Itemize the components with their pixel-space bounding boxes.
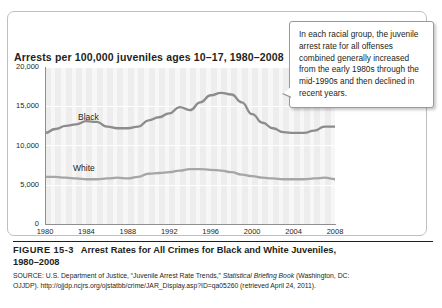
- y-tick-label: 5,000: [3, 180, 39, 189]
- caption-separator: [13, 241, 433, 242]
- figure-caption-line2: 1980–2008: [13, 257, 60, 267]
- x-tick-label: 2008: [315, 227, 355, 236]
- figure-caption-line1: Arrest Rates for All Crimes for Black an…: [81, 245, 336, 255]
- source-text-line2: OJJDP). http://ojjdp.ncjrs.org/ojstatbb/…: [13, 282, 316, 289]
- y-axis-line: [45, 67, 46, 225]
- x-tick-label: 1992: [149, 227, 189, 236]
- figure-source: SOURCE: U.S. Department of Justice, “Juv…: [13, 271, 437, 291]
- y-tick-label: 15,000: [3, 101, 39, 110]
- figure-caption: FIGURE 15-3Arrest Rates for All Crimes f…: [13, 244, 433, 269]
- callout-annotation: In each racial group, the juvenile arres…: [289, 21, 434, 108]
- series-label-black: Black: [78, 112, 99, 122]
- source-italic-title: Statistical Briefing Book: [223, 272, 294, 279]
- source-text-part1: SOURCE: U.S. Department of Justice, “Juv…: [13, 272, 223, 279]
- x-tick-label: 1980: [25, 227, 65, 236]
- x-tick-label: 2000: [232, 227, 272, 236]
- figure-number: FIGURE 15-3: [13, 245, 74, 255]
- x-axis-line: [45, 224, 336, 225]
- x-tick-label: 1996: [191, 227, 231, 236]
- callout-tail: [283, 86, 292, 97]
- y-tick-label: 20,000: [3, 62, 39, 71]
- series-label-white: White: [73, 163, 95, 173]
- x-tick-label: 1988: [108, 227, 148, 236]
- source-text-part2: (Washington, DC:: [294, 272, 349, 279]
- chart-title: Arrests per 100,000 juveniles ages 10–17…: [14, 51, 284, 63]
- figure-container: Arrests per 100,000 juveniles ages 10–17…: [0, 0, 442, 308]
- y-tick-label: 10,000: [3, 141, 39, 150]
- x-tick-label: 2004: [274, 227, 314, 236]
- x-tick-label: 1984: [66, 227, 106, 236]
